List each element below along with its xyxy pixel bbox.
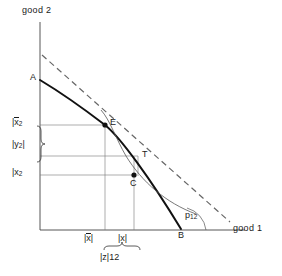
brace-y2 [37, 126, 45, 162]
y-tick-label-y2: |y2| [12, 140, 25, 150]
overbar [86, 233, 91, 234]
point-marker-C [131, 172, 136, 177]
x-tick-label-xbar1: |x| [84, 234, 93, 243]
point-label-E: E [110, 118, 116, 127]
figure-canvas: good 2 good 1 A E T C B p12 |x2 |y2| |x2… [0, 0, 282, 276]
diagram-svg [0, 0, 282, 276]
brace-subscript: 12 [109, 252, 119, 262]
tick-base: x [86, 233, 91, 243]
tick-base: x [14, 117, 19, 127]
angle-subscript: 12 [190, 213, 197, 220]
y-axis-label: good 2 [22, 6, 51, 15]
ppf-curve [40, 80, 181, 229]
angle-label-p12: p12 [185, 211, 197, 221]
y-tick-label-xbar2: |x2 [12, 118, 22, 128]
tick-subscript: 2 [19, 170, 23, 177]
x-tick-label-x1: |x| [118, 234, 127, 243]
tick-subscript: 2 [19, 120, 23, 127]
overbar-wrap: x [86, 234, 91, 243]
point-label-C: C [130, 179, 137, 188]
x-axis-label: good 1 [233, 224, 262, 233]
point-label-B: B [178, 231, 184, 240]
y-tick-label-x2: |x2 [12, 168, 22, 178]
guide-lines-group [40, 125, 138, 230]
pipe-right: | [125, 233, 127, 243]
overbar [14, 117, 19, 118]
point-label-A: A [30, 73, 36, 82]
overbar-wrap: x [14, 118, 19, 127]
pipe-right: | [91, 233, 93, 243]
point-marker-E [102, 122, 107, 127]
brace-z12 [104, 242, 140, 250]
point-label-T: T [142, 150, 148, 159]
pipe-right: | [22, 139, 24, 149]
axes-group [40, 22, 245, 230]
budget-line [42, 55, 230, 222]
brace-label-z12: |z|12 [100, 253, 119, 262]
